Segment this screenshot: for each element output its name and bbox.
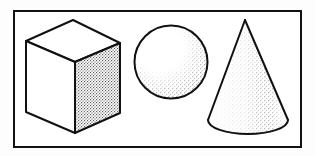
illustration-canvas: Three basic geometric solids Line drawin… [0,0,315,156]
shape-sphere [133,24,211,102]
geometric-solids-figure [0,0,315,156]
shape-cone [206,18,290,136]
cone-stipple [206,18,290,136]
